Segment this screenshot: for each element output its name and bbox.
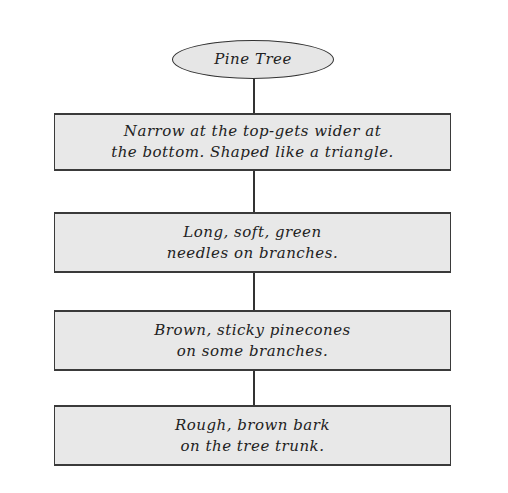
node-needles: Long, soft, green needles on branches. (54, 212, 451, 273)
node-shape-line-2: the bottom. Shaped like a triangle. (111, 142, 394, 163)
node-bark-line-2: on the tree trunk. (181, 436, 325, 457)
node-bark: Rough, brown bark on the tree trunk. (54, 405, 451, 466)
node-shape-line-1: Narrow at the top-gets wider at (124, 121, 381, 142)
pine-tree-flowchart: Pine Tree Narrow at the top-gets wider a… (0, 0, 508, 493)
connector-line (253, 171, 255, 212)
connector-line (253, 273, 255, 310)
node-pinecones-line-1: Brown, sticky pinecones (154, 320, 351, 341)
node-bark-line-1: Rough, brown bark (175, 415, 330, 436)
node-pinecones-line-2: on some branches. (177, 341, 328, 362)
node-needles-line-1: Long, soft, green (183, 222, 321, 243)
node-needles-line-2: needles on branches. (167, 243, 338, 264)
connector-line (253, 79, 255, 113)
node-pinecones: Brown, sticky pinecones on some branches… (54, 310, 451, 371)
title-node: Pine Tree (172, 40, 334, 79)
connector-line (253, 371, 255, 405)
node-shape: Narrow at the top-gets wider at the bott… (54, 113, 451, 171)
title-text: Pine Tree (214, 49, 292, 70)
